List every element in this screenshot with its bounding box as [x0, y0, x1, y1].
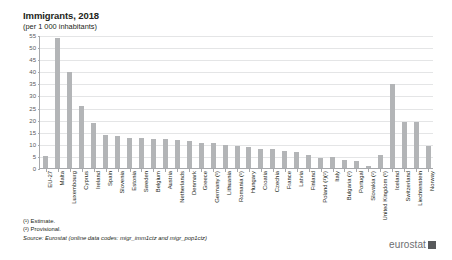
- footnotes: (¹) Estimate. (²) Provisional. Source: E…: [23, 218, 353, 242]
- bar: [270, 149, 275, 169]
- x-tick-label: Malta: [59, 171, 65, 185]
- bar: [55, 38, 60, 169]
- x-tick-label: Estonia: [131, 171, 137, 191]
- bar: [67, 72, 72, 169]
- y-tick-label: 55: [29, 33, 36, 39]
- bar: [235, 146, 240, 169]
- bar: [414, 122, 419, 169]
- y-tick-label: 50: [29, 45, 36, 51]
- bar: [163, 139, 168, 169]
- bar: [79, 106, 84, 169]
- x-tick-label: Slovenia: [119, 171, 125, 194]
- bar: [91, 123, 96, 169]
- y-tick-label: 25: [29, 106, 36, 112]
- y-tick-label: 30: [29, 93, 36, 99]
- y-tick-label: 15: [29, 130, 36, 136]
- x-tick-label: Luxembourg: [71, 171, 77, 204]
- x-tick-label: Poland (¹)(²): [322, 171, 328, 203]
- x-axis-labels: EU-27MaltaLuxembourgCyprusIrelandSpainSl…: [39, 171, 433, 217]
- bar: [211, 143, 216, 169]
- x-tick-label: United Kingdom (¹): [382, 171, 388, 220]
- bar: [258, 149, 263, 169]
- footnote-estimate: (¹) Estimate.: [23, 218, 353, 226]
- x-tick-label: Slovakia (²): [370, 171, 376, 201]
- bar: [390, 84, 395, 169]
- y-tick-label: 45: [29, 57, 36, 63]
- bar: [151, 139, 156, 169]
- x-tick-label: Cyprus: [83, 171, 89, 190]
- x-tick-label: France: [286, 171, 292, 189]
- bar: [115, 136, 120, 169]
- source-label: Source:: [23, 235, 43, 241]
- y-tick-label: 40: [29, 69, 36, 75]
- title-block: Immigrants, 2018 (per 1 000 inhabitants): [23, 10, 323, 32]
- x-tick-label: Iceland: [394, 171, 400, 190]
- x-tick-label: Belgium: [155, 171, 161, 192]
- y-tick-mark: [38, 169, 41, 170]
- eurostat-mark-icon: [428, 241, 436, 249]
- bar: [187, 141, 192, 169]
- x-tick-label: Greece: [202, 171, 208, 190]
- plot-area: [39, 36, 433, 169]
- eurostat-wordmark: eurostat: [389, 239, 426, 250]
- x-axis-baseline: [40, 168, 433, 169]
- y-tick-label: 20: [29, 118, 36, 124]
- bar: [294, 152, 299, 169]
- x-tick-label: Portugal: [358, 171, 364, 193]
- page-title: Immigrants, 2018: [23, 10, 323, 21]
- x-tick-label: Lithuania: [226, 171, 232, 195]
- x-tick-label: Romania (¹): [238, 171, 244, 202]
- x-tick-label: Latvia: [298, 171, 304, 187]
- x-tick-label: Bulgaria (²): [346, 171, 352, 200]
- bar: [306, 155, 311, 169]
- bar: [282, 151, 287, 169]
- x-tick-label: Finland: [310, 171, 316, 190]
- eurostat-logo: eurostat: [389, 239, 436, 250]
- y-tick-label: 10: [29, 142, 36, 148]
- chart-subtitle: (per 1 000 inhabitants): [23, 22, 323, 32]
- x-tick-label: Denmark: [191, 171, 197, 195]
- x-tick-label: Netherlands: [179, 171, 185, 203]
- x-tick-label: Germany (¹): [214, 171, 220, 203]
- bar: [199, 143, 204, 169]
- x-tick-label: Sweden: [143, 171, 149, 192]
- bar: [378, 155, 383, 169]
- chart-figure: Immigrants, 2018 (per 1 000 inhabitants)…: [0, 0, 452, 260]
- bar: [139, 138, 144, 169]
- x-tick-label: Croatia: [262, 171, 268, 190]
- x-tick-label: Hungary: [250, 171, 256, 193]
- bar: [103, 135, 108, 169]
- x-tick-label: Norway: [429, 171, 435, 191]
- bar: [246, 147, 251, 169]
- x-tick-label: EU-27: [47, 171, 53, 188]
- x-tick-label: Liechtenstein: [417, 171, 423, 206]
- y-tick-label: 0: [33, 166, 36, 172]
- footnote-provisional: (²) Provisional.: [23, 226, 353, 234]
- source-text: Eurostat (online data codes: migr_imm1ct…: [45, 235, 207, 241]
- y-axis-labels: 0510152025303540455055: [23, 36, 36, 169]
- y-tick-label: 35: [29, 81, 36, 87]
- bar: [175, 140, 180, 169]
- x-tick-label: Czechia: [274, 171, 280, 192]
- x-tick-label: Switzerland: [405, 171, 411, 201]
- source-line: Source: Eurostat (online data codes: mig…: [23, 235, 353, 243]
- bar: [402, 122, 407, 169]
- bar: [223, 145, 228, 169]
- bar: [426, 146, 431, 169]
- x-tick-label: Austria: [167, 171, 173, 189]
- x-tick-label: Italy: [334, 171, 340, 182]
- bar: [127, 138, 132, 169]
- x-tick-label: Spain: [107, 171, 113, 186]
- y-tick-label: 5: [33, 154, 36, 160]
- bar-series: [40, 36, 433, 169]
- x-tick-label: Ireland: [95, 171, 101, 189]
- plot-wrapper: 0510152025303540455055: [23, 36, 433, 169]
